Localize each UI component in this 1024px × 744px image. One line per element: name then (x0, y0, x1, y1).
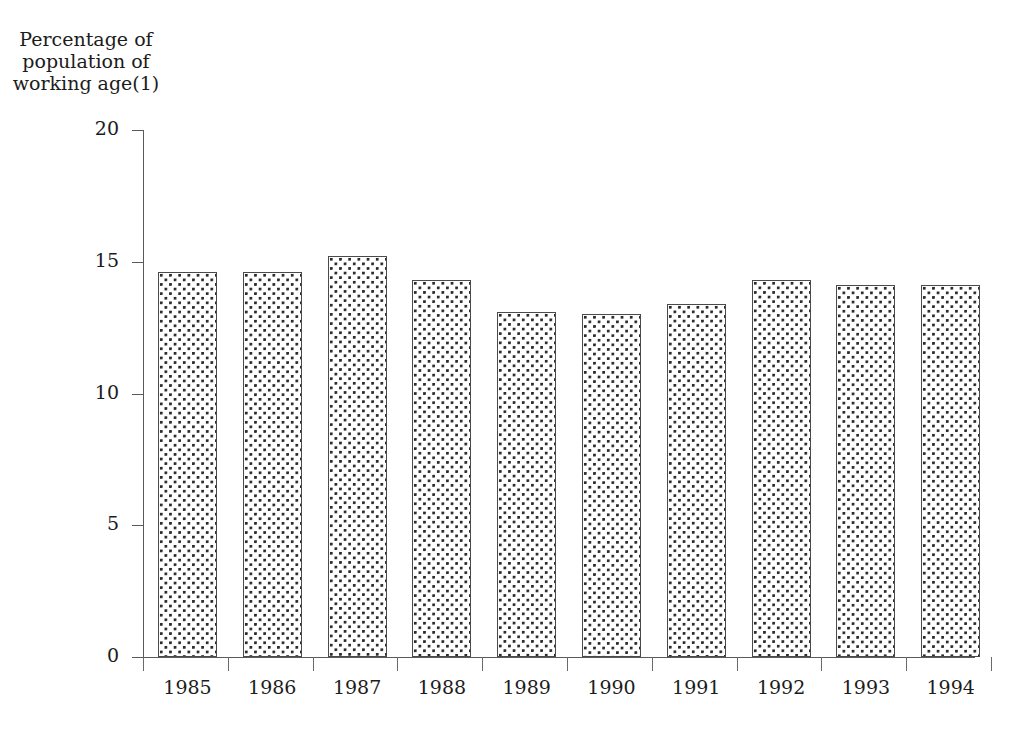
x-axis-line (143, 657, 975, 658)
bar-1990 (582, 314, 641, 657)
y-axis-tick-label: 20 (59, 117, 119, 139)
x-axis-tick (567, 657, 568, 671)
x-axis-tick (143, 657, 144, 671)
bar-1994 (921, 285, 980, 657)
bar-1993 (836, 285, 895, 657)
x-axis-tick (991, 657, 992, 671)
y-axis-tick (132, 657, 143, 658)
bar-1988 (412, 280, 471, 657)
y-axis-tick (132, 130, 143, 131)
y-axis-tick (132, 525, 143, 526)
bar-1985 (158, 272, 217, 657)
x-axis-tick (313, 657, 314, 671)
bar-chart: Percentage of population of working age(… (0, 0, 1024, 744)
chart-title-line-3: working age(1) (6, 72, 166, 94)
y-axis-tick-label: 5 (59, 512, 119, 534)
x-axis-tick (737, 657, 738, 671)
chart-title-line-1: Percentage of (6, 28, 166, 50)
y-axis-tick (132, 394, 143, 395)
y-axis-tick-label: 15 (59, 249, 119, 271)
x-axis-label-1994: 1994 (901, 676, 1001, 698)
x-axis-tick (482, 657, 483, 671)
x-axis-tick (821, 657, 822, 671)
bar-1992 (752, 280, 811, 657)
x-axis-tick (652, 657, 653, 671)
chart-title-line-2: population of (6, 50, 166, 72)
y-axis-tick (132, 262, 143, 263)
x-axis-tick (397, 657, 398, 671)
x-axis-tick (228, 657, 229, 671)
y-axis-line (143, 130, 144, 657)
plot-area (143, 130, 975, 657)
bar-1986 (243, 272, 302, 657)
x-axis-tick (906, 657, 907, 671)
chart-title: Percentage of population of working age(… (6, 28, 166, 95)
y-axis-tick-label: 10 (59, 381, 119, 403)
bar-1989 (497, 312, 556, 657)
bar-1991 (667, 304, 726, 657)
bar-1987 (328, 256, 387, 657)
y-axis-tick-label: 0 (59, 644, 119, 666)
